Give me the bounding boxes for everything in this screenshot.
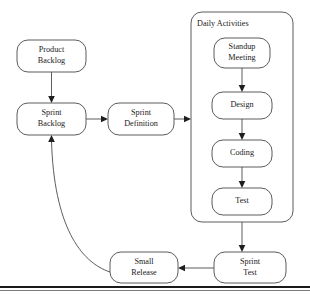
edge-product-backlog-to-sprint-backlog bbox=[48, 72, 55, 103]
edge-path bbox=[52, 141, 111, 272]
node-label-line1: Sprint bbox=[240, 257, 261, 266]
node-sprint-definition[interactable]: SprintDefinition bbox=[108, 103, 174, 135]
node-coding[interactable]: Coding bbox=[212, 140, 272, 167]
node-label-line1: Sprint bbox=[131, 108, 152, 117]
daily-activities-label: Daily Activities bbox=[197, 19, 249, 28]
node-label-line1: Standup bbox=[229, 42, 256, 51]
node-label-line2: Definition bbox=[124, 119, 158, 128]
node-sprint-backlog[interactable]: SprintBacklog bbox=[17, 103, 86, 135]
arrow-head-icon bbox=[178, 265, 185, 272]
edge-sprint-test-to-small-release bbox=[178, 265, 214, 272]
arrow-head-icon bbox=[48, 135, 55, 142]
flow-diagram-svg: Daily Activities ProductBacklogSprintBac… bbox=[0, 0, 310, 299]
node-label-line1: Small bbox=[134, 257, 154, 266]
edge-daily-activities-to-sprint-test bbox=[239, 222, 246, 252]
node-label-line1: Sprint bbox=[41, 108, 62, 117]
node-label-line1: Design bbox=[230, 100, 253, 109]
node-label-line2: Test bbox=[243, 268, 257, 277]
edge-sprint-backlog-to-sprint-definition bbox=[86, 116, 108, 123]
edge-sprint-definition-to-daily-activities bbox=[174, 116, 191, 123]
diagram-canvas: Daily Activities ProductBacklogSprintBac… bbox=[0, 0, 310, 299]
node-label-line2: Meeting bbox=[228, 53, 255, 62]
arrow-head-icon bbox=[184, 116, 191, 123]
node-standup-meeting[interactable]: StandupMeeting bbox=[214, 38, 270, 68]
arrow-head-icon bbox=[101, 116, 108, 123]
node-label-line2: Backlog bbox=[38, 119, 65, 128]
node-label-line1: Product bbox=[39, 45, 65, 54]
node-label-line1: Coding bbox=[230, 148, 254, 157]
node-small-release[interactable]: SmallRelease bbox=[110, 252, 178, 283]
arrow-head-icon bbox=[48, 96, 55, 103]
bottom-rule-thin bbox=[0, 290, 310, 291]
node-sprint-test[interactable]: SprintTest bbox=[214, 252, 286, 283]
arrow-head-icon bbox=[239, 245, 246, 252]
bottom-rule-thick bbox=[0, 286, 310, 288]
node-test[interactable]: Test bbox=[212, 188, 272, 215]
edge-small-release-to-sprint-backlog bbox=[48, 135, 110, 272]
node-label-line1: Test bbox=[235, 196, 249, 205]
node-label-line2: Backlog bbox=[38, 56, 65, 65]
node-design[interactable]: Design bbox=[212, 92, 272, 119]
node-product-backlog[interactable]: ProductBacklog bbox=[17, 40, 86, 72]
node-label-line2: Release bbox=[131, 268, 157, 277]
